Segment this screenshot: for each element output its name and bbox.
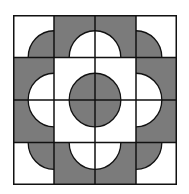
tile-grid <box>13 15 177 185</box>
tile <box>136 143 177 186</box>
tile <box>13 15 54 58</box>
tile <box>54 100 95 143</box>
tile <box>13 58 54 101</box>
tile <box>95 143 136 186</box>
tile <box>95 100 136 143</box>
tile <box>95 58 136 101</box>
tile <box>136 15 177 58</box>
tile <box>13 143 54 186</box>
tile-pattern-figure <box>13 15 177 185</box>
tile <box>136 100 177 143</box>
tile <box>95 15 136 58</box>
tile <box>54 143 95 186</box>
tile <box>54 15 95 58</box>
tile <box>136 58 177 101</box>
tile <box>13 100 54 143</box>
tile <box>54 58 95 101</box>
